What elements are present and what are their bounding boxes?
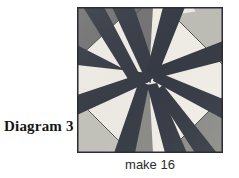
fabric-texture-overlay — [77, 7, 223, 153]
quilt-block-image — [77, 7, 223, 153]
quilt-block-svg — [77, 7, 223, 153]
diagram-figure: Diagram 3 — [0, 0, 239, 178]
make-caption: make 16 — [77, 157, 223, 172]
diagram-label: Diagram 3 — [4, 118, 74, 135]
